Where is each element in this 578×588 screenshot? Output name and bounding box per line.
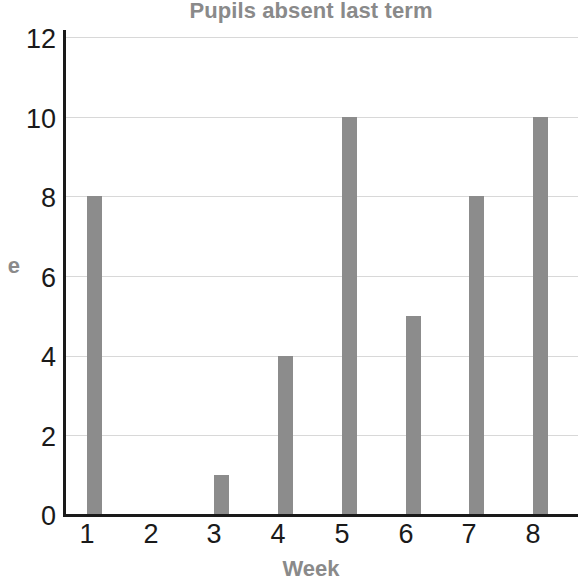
gridline-10: [66, 117, 578, 118]
gridline-4: [66, 356, 578, 357]
y-tick-label-4: 4: [10, 344, 56, 371]
x-tick-label-6: 6: [386, 521, 426, 548]
x-tick-label-5: 5: [322, 521, 362, 548]
y-axis-tick-labels: 0 2 4 6 8 10 12: [0, 0, 56, 588]
gridline-2: [66, 435, 578, 436]
x-tick-label-1: 1: [67, 521, 107, 548]
x-axis-line: [63, 514, 578, 517]
y-tick-label-2: 2: [10, 424, 56, 451]
x-tick-label-3: 3: [194, 521, 234, 548]
y-tick-label-8: 8: [10, 185, 56, 212]
x-tick-label-8: 8: [513, 521, 553, 548]
y-tick-label-0: 0: [10, 503, 56, 530]
bar-week-8[interactable]: [533, 117, 548, 515]
chart-title: Pupils absent last term: [66, 0, 556, 24]
gridline-12: [66, 37, 578, 38]
y-tick-label-6: 6: [10, 265, 56, 292]
bar-week-6[interactable]: [406, 316, 421, 515]
bar-week-3[interactable]: [214, 475, 229, 515]
bar-week-7[interactable]: [469, 196, 484, 515]
gridline-6: [66, 276, 578, 277]
bar-chart-screenshot: Pupils absent last term e 0 2 4 6 8 10 1…: [0, 0, 578, 588]
bar-week-4[interactable]: [278, 356, 293, 515]
y-axis-line: [63, 30, 66, 517]
y-tick-label-10: 10: [10, 106, 56, 133]
y-tick-label-12: 12: [10, 26, 56, 53]
gridline-8: [66, 196, 578, 197]
bar-week-5[interactable]: [342, 117, 357, 515]
x-tick-label-7: 7: [449, 521, 489, 548]
bar-week-1[interactable]: [87, 196, 102, 515]
x-tick-label-2: 2: [131, 521, 171, 548]
x-tick-label-4: 4: [258, 521, 298, 548]
plot-area: [66, 37, 578, 515]
x-axis-title: Week: [66, 556, 556, 582]
